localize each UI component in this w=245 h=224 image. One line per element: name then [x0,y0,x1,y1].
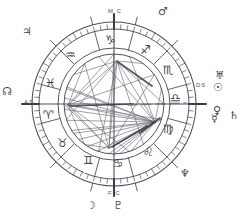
sign-glyph-aries: ♈ [43,109,54,121]
astrology-chart: ♑♐♏♎♍♌♋♊♉♈♓♒ ♂♃☊♅☉♀☿♄♆☽♇ M CF CASDS [0,0,245,224]
sign-glyph-taurus: ♉ [57,137,68,149]
sign-glyph-sagittarius: ♐ [140,44,151,56]
planet-glyph-saturn: ♄ [229,110,239,121]
sign-glyph-libra: ♎ [170,92,181,104]
planet-glyph-jupiter: ♃ [22,26,32,37]
planet-glyph-moon: ☽ [86,200,96,211]
angle-tag-descendant: DS [196,82,206,88]
angle-tag-ascendant: AS [24,99,34,105]
angle-tag-midheaven: M C [108,8,122,14]
sign-glyph-capricorn: ♑ [105,34,116,46]
sign-glyph-cancer: ♋ [113,157,124,169]
planet-glyph-mars: ♂ [158,6,168,17]
planet-glyph-pluto: ♇ [113,200,123,211]
planet-glyph-north-node: ☊ [2,86,12,97]
planet-glyph-neptune: ♆ [180,168,190,179]
sign-glyph-leo: ♌ [143,146,154,158]
chart-wheel-graphics [0,0,245,224]
planet-glyph-mercury: ☿ [211,113,218,124]
sign-glyph-aquarius: ♒ [65,49,76,61]
sign-glyph-scorpio: ♏ [163,64,174,76]
sign-glyph-pisces: ♓ [45,77,56,89]
sign-glyph-virgo: ♍ [163,123,174,135]
angle-tag-imum-coeli: F C [108,190,121,196]
planet-glyph-uranus: ♅ [215,70,225,81]
planet-glyph-sun: ☉ [213,82,223,93]
sign-glyph-gemini: ♊ [83,154,94,166]
